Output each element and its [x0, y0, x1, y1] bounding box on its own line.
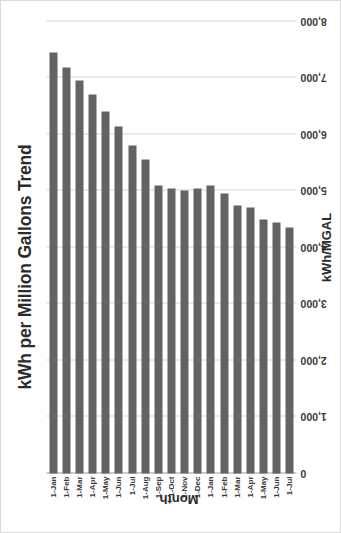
bar [75, 21, 83, 473]
bar [233, 21, 241, 473]
category-tick-label: 1-Apr [88, 476, 97, 497]
bar-fill [141, 159, 149, 473]
bar [62, 21, 70, 473]
value-tick-label: 0 [300, 467, 306, 479]
value-axis-title: kWh/MGAL [318, 21, 333, 473]
bar-fill [114, 126, 122, 473]
category-tick-label: 1-May [259, 476, 268, 499]
bar [246, 21, 254, 473]
bar [88, 21, 96, 473]
bar-fill [246, 207, 254, 473]
bar-fill [49, 52, 57, 473]
category-tick-label: 1-Mar [74, 476, 83, 497]
bar-fill [75, 80, 83, 473]
category-tick-label: 1-Jan [48, 476, 57, 497]
bar [154, 21, 162, 473]
bar-fill [88, 94, 96, 473]
chart-title: kWh per Million Gallons Trend [14, 0, 35, 533]
bar-fill [220, 193, 228, 473]
bar [128, 21, 136, 473]
bar [272, 21, 280, 473]
bar [285, 21, 293, 473]
category-tick-label: 1-Feb [61, 476, 70, 497]
bar-fill [62, 67, 70, 473]
bar-fill [285, 227, 293, 473]
category-axis-title: Month [109, 492, 249, 507]
bar-fill [101, 111, 109, 473]
bar-fill [272, 222, 280, 473]
bar-fill [128, 145, 136, 473]
bar [114, 21, 122, 473]
bar [180, 21, 188, 473]
bar-fill [193, 188, 201, 473]
bar-fill [233, 205, 241, 473]
bar-fill [259, 219, 267, 473]
screenshot-page: kWh per Million Gallons Trend 01,0002,00… [0, 0, 341, 533]
category-tick-label: 1-Jul [285, 476, 294, 495]
bar [220, 21, 228, 473]
bar-fill [167, 188, 175, 473]
bar [206, 21, 214, 473]
plot-area [46, 21, 296, 473]
bar [141, 21, 149, 473]
bar [49, 21, 57, 473]
bar [193, 21, 201, 473]
bar-series [46, 21, 296, 473]
bar-fill [206, 185, 214, 473]
bar [101, 21, 109, 473]
category-tick-label: 1-Jun [272, 476, 281, 497]
bar-chart: kWh per Million Gallons Trend 01,0002,00… [0, 0, 341, 533]
bar [259, 21, 267, 473]
bar-fill [154, 185, 162, 473]
bar-fill [180, 191, 188, 474]
bar [167, 21, 175, 473]
rotated-chart-wrapper: kWh per Million Gallons Trend 01,0002,00… [0, 0, 341, 533]
